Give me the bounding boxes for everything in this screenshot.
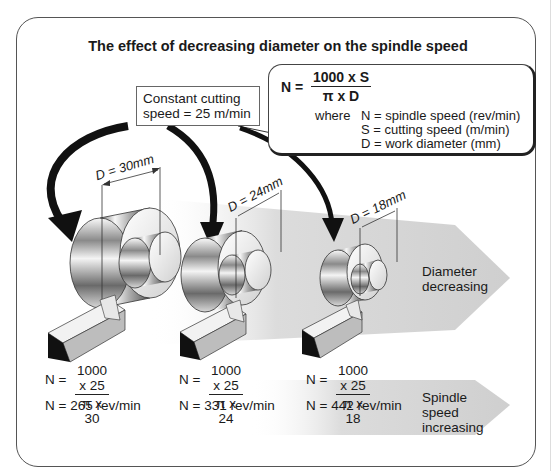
calc-fraction: 1000 x 25 π x 30: [75, 363, 109, 426]
diameter-decreasing-label: Diameter decreasing: [422, 264, 488, 294]
definition-n: N = spindle speed (rev/min): [361, 109, 520, 123]
result-24mm: N = 331 rev/min: [179, 398, 275, 413]
calc-numerator: 1000 x 25: [336, 363, 370, 395]
spindle-speed-increasing-label: Spindle speed increasing: [422, 390, 484, 435]
calc-lhs: N =: [179, 372, 200, 387]
formula-lhs: N =: [281, 79, 303, 95]
result-18mm: N = 442 rev/min: [306, 398, 402, 413]
calc-numerator: 1000 x 25: [75, 363, 109, 395]
constant-box-line2: speed = 25 m/min: [143, 106, 259, 121]
definition-d: D = work diameter (mm): [361, 137, 501, 151]
speed-label-line2: speed: [422, 405, 484, 420]
calc-lhs: N =: [306, 372, 327, 387]
formula-box: N = 1000 x S π x D where N = spindle spe…: [268, 64, 536, 156]
calc-fraction: 1000 x 25 π x 18: [336, 363, 370, 426]
constant-cutting-speed-box: Constant cutting speed = 25 m/min: [136, 86, 260, 126]
formula-denominator: π x D: [311, 87, 371, 104]
calc-fraction: 1000 x 25 π x 24: [209, 363, 243, 426]
formula-numerator: 1000 x S: [311, 69, 371, 87]
definition-s: S = cutting speed (m/min): [361, 123, 509, 137]
diameter-label-line2: decreasing: [422, 279, 488, 294]
diameter-label-line1: Diameter: [422, 264, 488, 279]
calc-lhs: N =: [45, 372, 66, 387]
where-label: where: [315, 109, 350, 123]
calc-numerator: 1000 x 25: [209, 363, 243, 395]
speed-label-line3: increasing: [422, 420, 484, 435]
constant-box-line1: Constant cutting: [143, 91, 259, 106]
result-30mm: N = 265 rev/min: [45, 398, 141, 413]
formula-fraction: 1000 x S π x D: [311, 69, 371, 104]
diagram-title: The effect of decreasing diameter on the…: [0, 38, 556, 54]
speed-label-line1: Spindle: [422, 390, 484, 405]
